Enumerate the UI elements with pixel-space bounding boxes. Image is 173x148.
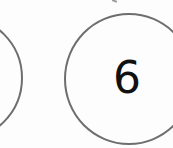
- left-circle: [0, 15, 23, 141]
- right-circle: 6: [64, 13, 173, 145]
- right-circle-label: 6: [113, 56, 141, 100]
- number-bond-diagram: 6: [0, 0, 173, 148]
- connector-line: [112, 0, 117, 3]
